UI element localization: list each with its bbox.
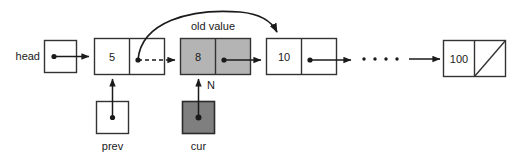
- ellipsis-dots: [362, 57, 398, 60]
- cur-pointer-label: cur: [191, 140, 207, 152]
- node-2-value: 8: [195, 51, 201, 63]
- node-3-value: 10: [278, 51, 290, 63]
- head-pointer-label: head: [16, 50, 40, 62]
- node-4-value: 100: [450, 53, 468, 65]
- linked-list-diagram: head 5 prev old value 8 N cur: [0, 0, 513, 167]
- prev-pointer-label: prev: [102, 140, 124, 152]
- new-node-marker-label: N: [207, 79, 215, 91]
- node-1-value: 5: [109, 51, 115, 63]
- old-value-annotation: old value: [191, 20, 235, 32]
- diagram-canvas: head 5 prev old value 8 N cur: [0, 0, 513, 167]
